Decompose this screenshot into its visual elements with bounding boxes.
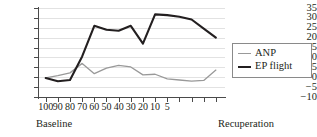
- x-axis-tick-label: 5: [156, 102, 178, 112]
- legend-label-ep-flight: EP flight: [255, 61, 292, 72]
- x-axis-tick-mark: [204, 97, 205, 102]
- x-axis-line: [38, 97, 226, 98]
- chart-screenshot: 35302520151050−5−10 10090807060504030201…: [0, 0, 317, 137]
- legend-swatch-ep-flight: [238, 66, 251, 68]
- x-axis-tick-mark: [192, 97, 193, 102]
- legend-item-anp[interactable]: ANP: [238, 47, 306, 60]
- legend-label-anp: ANP: [255, 48, 276, 59]
- y-axis-tick-label: −10: [283, 92, 317, 103]
- legend-item-ep-flight[interactable]: EP flight: [238, 60, 306, 73]
- x-axis-tick-mark: [179, 97, 180, 102]
- legend-swatch-anp: [238, 53, 251, 54]
- phase-label-recuperation: Recuperation: [218, 119, 274, 130]
- phase-label-baseline: Baseline: [36, 119, 72, 130]
- chart-series-layer: [39, 8, 225, 97]
- x-axis-tick-mark: [216, 97, 217, 102]
- chart-legend: ANP EP flight: [232, 43, 312, 78]
